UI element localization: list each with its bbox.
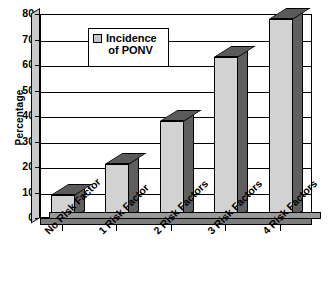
x-axis-tick-labels: No Risk Factor1 Risk Factor2 Risk Factor… xyxy=(0,228,328,307)
bar-top-face-2 xyxy=(160,110,202,121)
y-tick-mark-50 xyxy=(35,91,39,92)
bar-top-face-3 xyxy=(214,46,256,57)
bar-top-face-1 xyxy=(105,153,147,164)
bar-4 xyxy=(269,19,293,218)
y-tick-mark-10 xyxy=(35,193,39,194)
y-tick-mark-80 xyxy=(35,14,39,15)
bar-top-face-4 xyxy=(269,8,311,19)
y-tick-mark-60 xyxy=(35,65,39,66)
legend-swatch-icon xyxy=(93,34,102,43)
y-tick-mark-70 xyxy=(35,40,39,41)
y-tick-mark-20 xyxy=(35,167,39,168)
legend-label-line1: Incidence xyxy=(106,32,157,44)
ponv-incidence-bar-chart: Percentage 01020304050607080 Incidence o… xyxy=(0,0,328,307)
y-tick-mark-30 xyxy=(35,142,39,143)
bar-front-face-4 xyxy=(269,19,293,218)
legend-entry: Incidence xyxy=(93,32,164,44)
legend-box: Incidence of PONV xyxy=(88,28,169,67)
y-tick-mark-40 xyxy=(35,116,39,117)
bar-3 xyxy=(214,57,238,218)
legend-label-line2: of PONV xyxy=(93,44,164,56)
bar-front-face-3 xyxy=(214,57,238,218)
y-tick-mark-0 xyxy=(35,218,39,219)
